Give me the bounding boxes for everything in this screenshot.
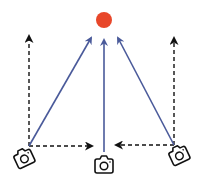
target-dot	[96, 12, 112, 28]
camera-icon-center	[95, 156, 113, 173]
view-ray-2	[118, 38, 174, 145]
cameras	[12, 143, 190, 173]
multi-camera-diagram	[0, 0, 204, 187]
camera-icon-right	[167, 143, 190, 166]
dashed-arrows	[29, 36, 174, 146]
camera-icon-left	[12, 146, 35, 169]
view-rays	[29, 38, 174, 152]
target	[96, 12, 112, 28]
view-ray-0	[29, 38, 91, 146]
